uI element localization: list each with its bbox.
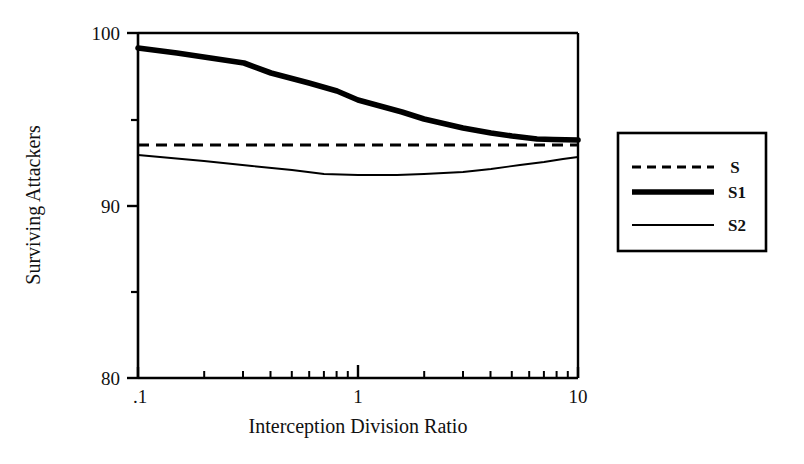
x-tick-label-mid: 1: [353, 386, 363, 407]
legend-label-S1: S1: [728, 183, 746, 202]
x-tick-label-right: 10: [569, 386, 588, 407]
legend-label-S2: S2: [728, 216, 746, 235]
legend-label-S: S: [730, 158, 739, 177]
x-axis-title: Interception Division Ratio: [249, 415, 468, 438]
y-tick-label-bottom: 80: [101, 368, 120, 389]
y-axis-title: Surviving Attackers: [22, 125, 45, 285]
legend[interactable]: S S1 S2: [618, 133, 766, 251]
y-tick-label-top: 100: [92, 23, 121, 44]
chart-figure: 100 90 80: [0, 0, 804, 464]
y-tick-label-mid: 90: [101, 196, 120, 217]
chart-svg: 100 90 80: [0, 0, 804, 464]
x-tick-label-left: .1: [133, 386, 147, 407]
